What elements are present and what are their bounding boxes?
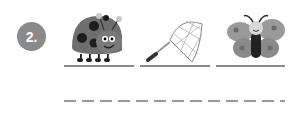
exercise-number: 2. xyxy=(26,29,38,45)
answer-line-3 xyxy=(216,65,285,67)
net-icon xyxy=(144,10,206,64)
answer-line-1 xyxy=(64,65,134,67)
answer-line-2 xyxy=(140,65,210,67)
exercise-number-badge: 2. xyxy=(17,22,46,51)
butterfly-icon xyxy=(224,10,288,64)
ladybug-icon xyxy=(68,10,128,64)
dashed-writing-line xyxy=(64,100,285,102)
